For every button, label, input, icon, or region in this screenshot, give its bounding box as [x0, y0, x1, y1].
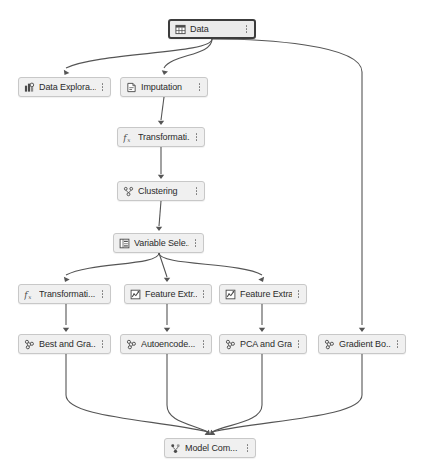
edge-arrowhead — [164, 328, 170, 332]
edge-data-to-gradboost — [212, 39, 362, 325]
node-menu-icon[interactable] — [196, 81, 203, 94]
edge-clustering-to-varsel — [159, 201, 161, 226]
node-menu-icon[interactable] — [200, 288, 207, 301]
workflow-node-dataexp[interactable]: Data Explora... — [18, 77, 111, 97]
node-menu-icon[interactable] — [193, 185, 200, 198]
workflow-node-data[interactable]: Data — [168, 19, 256, 39]
edge-arrowhead — [259, 328, 265, 332]
node-menu-icon[interactable] — [99, 338, 106, 351]
node-label: Imputation — [141, 82, 193, 93]
edge-arrowhead — [208, 430, 215, 438]
workflow-canvas[interactable]: DataData Explora...ImputationfxTransform… — [0, 0, 422, 475]
edge-varsel-to-transform2 — [66, 253, 159, 275]
node-menu-icon[interactable] — [295, 288, 302, 301]
edge-autoenc-to-modelcomp — [167, 354, 208, 432]
model-comparison-icon — [170, 443, 181, 454]
edge-arrowhead — [258, 277, 266, 284]
variable-selection-icon — [119, 238, 130, 249]
edge-imputation-to-transform1 — [161, 97, 164, 120]
node-menu-icon[interactable] — [295, 338, 302, 351]
edge-arrowhead — [205, 430, 212, 438]
imputation-icon — [126, 82, 137, 93]
node-label: Best and Gra... — [39, 339, 96, 350]
workflow-node-pcagrad[interactable]: PCA and Gra... — [219, 334, 307, 354]
node-menu-icon[interactable] — [394, 338, 401, 351]
model-icon — [126, 339, 137, 350]
svg-text:x: x — [28, 293, 32, 299]
node-label: Data Explora... — [39, 82, 96, 93]
node-label: Variable Sele... — [134, 238, 189, 249]
edge-arrowhead — [205, 430, 212, 438]
node-label: Feature Extra... — [240, 289, 292, 300]
node-label: Clustering — [138, 186, 190, 197]
model-icon — [225, 339, 236, 350]
model-icon — [24, 339, 35, 350]
workflow-node-gradboost[interactable]: Gradient Bo... — [318, 334, 406, 354]
feature-extraction-icon — [130, 289, 141, 300]
edge-varsel-to-featext2 — [159, 253, 262, 275]
clustering-icon — [123, 186, 134, 197]
edge-gradboost-to-modelcomp — [212, 354, 362, 432]
node-menu-icon[interactable] — [200, 338, 207, 351]
node-label: Data — [190, 24, 240, 35]
node-label: Autoencode... — [141, 339, 197, 350]
node-label: PCA and Gra... — [240, 339, 292, 350]
workflow-node-transform1[interactable]: fxTransformati... — [117, 127, 205, 147]
workflow-node-bestgrad[interactable]: Best and Gra... — [18, 334, 111, 354]
node-menu-icon[interactable] — [192, 237, 199, 250]
table-grid-icon — [175, 24, 186, 35]
node-menu-icon[interactable] — [99, 81, 106, 94]
workflow-edges — [0, 0, 422, 475]
workflow-node-featext2[interactable]: Feature Extra... — [219, 284, 307, 304]
edge-varsel-to-featext1 — [159, 253, 167, 277]
edge-arrowhead — [208, 430, 215, 438]
edge-arrowhead — [156, 227, 162, 231]
function-fx-icon: fx — [123, 132, 134, 143]
edge-arrowhead — [161, 70, 168, 75]
workflow-node-modelcomp[interactable]: Model Com... — [164, 438, 256, 458]
feature-extraction-icon — [225, 289, 236, 300]
workflow-node-autoenc[interactable]: Autoencode... — [120, 334, 212, 354]
edge-data-to-imputation — [164, 39, 212, 68]
edge-arrowhead — [62, 277, 70, 284]
edge-bestgrad-to-modelcomp — [66, 354, 208, 432]
data-exploration-icon — [24, 82, 35, 93]
edge-data-to-dataexp — [66, 39, 212, 68]
node-label: Gradient Bo... — [339, 339, 391, 350]
node-menu-icon[interactable] — [244, 442, 251, 455]
workflow-node-clustering[interactable]: Clustering — [117, 181, 205, 201]
workflow-node-transform2[interactable]: fxTransformati... — [18, 284, 111, 304]
node-label: Feature Extr... — [145, 289, 197, 300]
workflow-node-varsel[interactable]: Variable Sele... — [113, 233, 204, 253]
edge-arrowhead — [158, 175, 164, 179]
edge-arrowhead — [62, 70, 70, 77]
model-icon — [324, 339, 335, 350]
svg-text:x: x — [127, 136, 131, 142]
edge-pcagrad-to-modelcomp — [212, 354, 262, 432]
node-menu-icon[interactable] — [243, 23, 250, 36]
workflow-node-featext1[interactable]: Feature Extr... — [124, 284, 212, 304]
function-fx-icon: fx — [24, 289, 35, 300]
node-label: Transformati... — [39, 289, 96, 300]
edge-arrowhead — [158, 121, 164, 125]
node-label: Transformati... — [138, 132, 190, 143]
edge-arrowhead — [359, 328, 365, 332]
node-menu-icon[interactable] — [99, 288, 106, 301]
node-label: Model Com... — [185, 443, 241, 454]
edge-arrowhead — [164, 278, 170, 282]
node-menu-icon[interactable] — [193, 131, 200, 144]
edge-arrowhead — [63, 328, 69, 332]
workflow-node-imputation[interactable]: Imputation — [120, 77, 208, 97]
